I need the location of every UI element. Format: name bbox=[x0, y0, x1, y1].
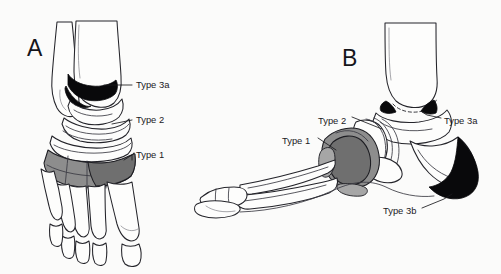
figure-container: A Type 3a Type 2 Type 1 bbox=[0, 0, 501, 274]
panel-b-letter: B bbox=[342, 45, 357, 71]
tibia-bone-b bbox=[385, 23, 437, 108]
panel-b-illustration: B Type 2 Type 3a Type 1 Type 3b bbox=[195, 23, 479, 218]
phalanx-3-a bbox=[76, 241, 90, 263]
panel-a-illustration: A Type 3a Type 2 Type 1 bbox=[27, 21, 170, 266]
label-type1-b: Type 1 bbox=[282, 135, 310, 146]
type3a-wedge-anterior-b bbox=[380, 101, 396, 113]
phalanx-5-a bbox=[50, 224, 63, 246]
metatarsal-1-a bbox=[107, 182, 139, 241]
phalanx-4-a bbox=[62, 236, 75, 258]
metatarsal-2-a bbox=[88, 184, 106, 239]
label-type2-b: Type 2 bbox=[318, 115, 346, 126]
label-type3a-a: Type 3a bbox=[136, 79, 170, 90]
anatomical-figure: A Type 3a Type 2 Type 1 bbox=[0, 0, 501, 274]
distal-phalanges-b bbox=[195, 201, 241, 218]
panel-a-letter: A bbox=[27, 35, 43, 61]
label-type2-a: Type 2 bbox=[136, 114, 164, 125]
phalanx-1-a bbox=[122, 244, 141, 266]
label-type3b-b: Type 3b bbox=[383, 205, 416, 216]
label-type1-a: Type 1 bbox=[136, 149, 164, 160]
label-type3a-b: Type 3a bbox=[444, 115, 478, 126]
phalanx-2-a bbox=[93, 243, 107, 265]
